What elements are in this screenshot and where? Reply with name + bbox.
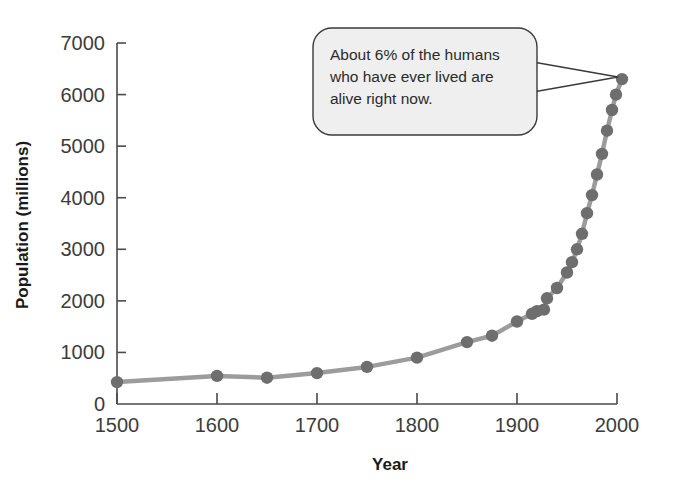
- data-point-1940: [551, 282, 563, 294]
- data-point-1999: [610, 88, 622, 100]
- data-point-1700: [311, 367, 323, 379]
- data-point-1500: [111, 376, 123, 388]
- data-point-1930: [541, 292, 553, 304]
- data-point-1990: [601, 125, 613, 137]
- data-point-1927: [538, 303, 550, 315]
- data-point-1960: [571, 243, 583, 255]
- data-point-1980: [591, 168, 603, 180]
- data-point-1850: [461, 336, 473, 348]
- y-tick-label-0: 0: [94, 393, 105, 415]
- y-axis-ticks: [117, 43, 126, 352]
- callout-line-2: who have ever lived are: [329, 68, 494, 85]
- x-tick-label-1600: 1600: [195, 414, 240, 436]
- data-point-1985: [596, 148, 608, 160]
- x-tick-label-1800: 1800: [395, 414, 440, 436]
- x-tick-label-1700: 1700: [295, 414, 340, 436]
- data-point-2005: [616, 73, 628, 85]
- y-tick-label-7000: 7000: [61, 32, 106, 54]
- data-point-1995: [606, 104, 618, 116]
- data-point-1965: [576, 228, 588, 240]
- callout-line-1: About 6% of the humans: [330, 46, 500, 63]
- x-axis-title: Year: [372, 455, 408, 474]
- data-point-1970: [581, 207, 593, 219]
- y-axis-tick-labels: 01000200030004000500060007000: [61, 32, 106, 415]
- callout-tail-icon: [533, 62, 618, 92]
- y-tick-label-6000: 6000: [61, 84, 106, 106]
- data-point-1600: [211, 370, 223, 382]
- x-tick-label-1500: 1500: [95, 414, 140, 436]
- x-axis-tick-labels: 150016001700180019002000: [95, 414, 640, 436]
- data-point-1975: [586, 189, 598, 201]
- y-tick-label-1000: 1000: [61, 341, 106, 363]
- population-chart-svg: 01000200030004000500060007000 1500160017…: [0, 0, 674, 493]
- data-point-1900: [511, 315, 523, 327]
- y-tick-label-5000: 5000: [61, 135, 106, 157]
- annotation-callout: About 6% of the humans who have ever liv…: [313, 28, 618, 135]
- x-tick-label-2000: 2000: [595, 414, 640, 436]
- data-point-1955: [566, 256, 578, 268]
- x-axis-ticks: [117, 393, 617, 404]
- data-point-1750: [361, 361, 373, 373]
- data-point-1650: [261, 372, 273, 384]
- data-point-1800: [411, 351, 423, 363]
- y-tick-label-4000: 4000: [61, 187, 106, 209]
- x-tick-label-1900: 1900: [495, 414, 540, 436]
- data-point-1875: [486, 330, 498, 342]
- y-tick-label-2000: 2000: [61, 290, 106, 312]
- population-growth-figure: 01000200030004000500060007000 1500160017…: [0, 0, 674, 493]
- y-tick-label-3000: 3000: [61, 238, 106, 260]
- y-axis-title: Population (millions): [13, 141, 32, 309]
- callout-line-3: alive right now.: [330, 90, 433, 107]
